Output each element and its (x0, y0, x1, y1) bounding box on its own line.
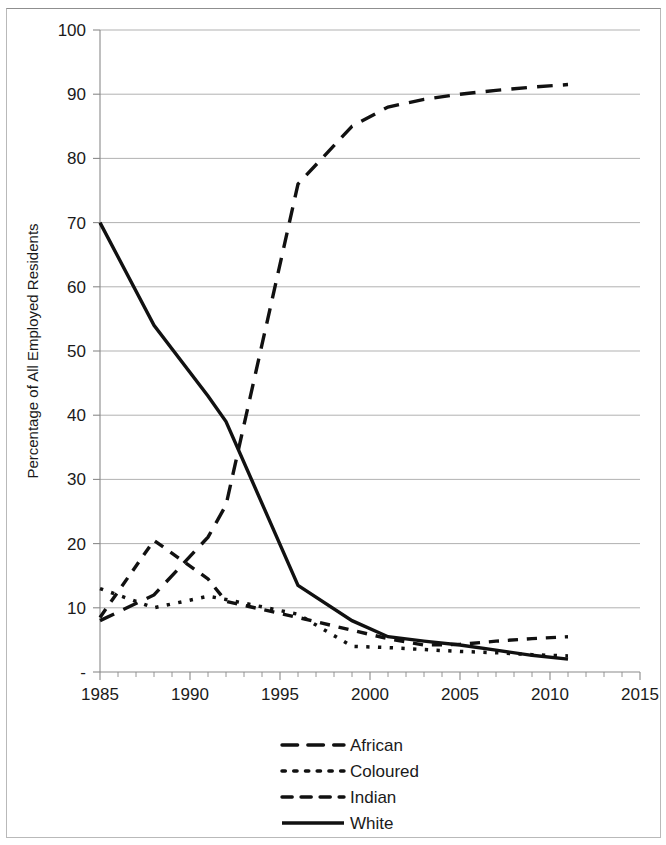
legend-label-coloured: Coloured (350, 762, 419, 781)
data-series (100, 85, 568, 660)
legend-label-indian: Indian (350, 788, 396, 807)
y-tick-label-30: 30 (67, 470, 86, 489)
chart-legend: AfricanColouredIndianWhite (282, 736, 419, 833)
x-tick-label-1985: 1985 (81, 685, 119, 704)
x-tick-label-1995: 1995 (261, 685, 299, 704)
y-tick-label-40: 40 (67, 406, 86, 425)
series-line-african (100, 85, 568, 621)
series-line-coloured (100, 589, 568, 656)
y-tick-label-20: 20 (67, 535, 86, 554)
y-axis-title: Percentage of All Employed Residents (24, 223, 41, 478)
y-tick-label-0: - (80, 663, 86, 682)
x-tick-label-2005: 2005 (441, 685, 479, 704)
y-tick-label-100: 100 (58, 21, 86, 40)
series-line-indian (100, 540, 568, 645)
y-tick-label-60: 60 (67, 278, 86, 297)
x-tick-label-2010: 2010 (531, 685, 569, 704)
y-axis (93, 30, 100, 672)
x-axis-tick-labels: 1985199019952000200520102015 (81, 685, 659, 704)
y-axis-label: Percentage of All Employed Residents (24, 223, 41, 478)
x-axis (100, 672, 640, 680)
x-tick-label-2000: 2000 (351, 685, 389, 704)
y-tick-label-10: 10 (67, 599, 86, 618)
legend-label-african: African (350, 736, 403, 755)
y-tick-label-80: 80 (67, 149, 86, 168)
series-line-white (100, 223, 568, 660)
y-tick-label-90: 90 (67, 85, 86, 104)
y-axis-tick-labels: -102030405060708090100 (58, 21, 86, 682)
chart-figure: -102030405060708090100 19851990199520002… (0, 0, 666, 845)
x-tick-label-1990: 1990 (171, 685, 209, 704)
x-tick-label-2015: 2015 (621, 685, 659, 704)
y-tick-label-70: 70 (67, 214, 86, 233)
legend-label-white: White (350, 814, 393, 833)
line-chart: -102030405060708090100 19851990199520002… (0, 0, 666, 845)
y-tick-label-50: 50 (67, 342, 86, 361)
